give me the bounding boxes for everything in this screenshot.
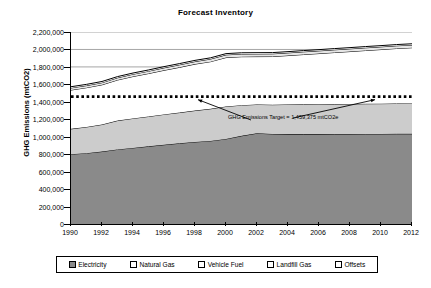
y-axis-tick-label: 1,000,000 bbox=[0, 133, 64, 140]
chart-title: Forecast Inventory bbox=[0, 8, 431, 17]
legend-swatch-icon bbox=[267, 261, 274, 268]
x-axis-tick-mark bbox=[194, 222, 195, 226]
target-annotation-label: GHG Emissions Target = 1,459,375 mtCO2e bbox=[228, 114, 338, 120]
x-axis-tick-mark bbox=[163, 222, 164, 226]
x-axis-tick-label: 1990 bbox=[62, 229, 78, 236]
y-axis-tick-label: 1,200,000 bbox=[0, 116, 64, 123]
x-axis-tick-label: 2000 bbox=[217, 229, 233, 236]
x-axis-tick-label: 2002 bbox=[248, 229, 264, 236]
y-axis-tick-label: 800,000 bbox=[0, 151, 64, 158]
x-axis-tick-label: 1992 bbox=[93, 229, 109, 236]
legend-item-landfill-gas[interactable]: Landfill Gas bbox=[267, 261, 311, 268]
x-axis-tick-label: 2008 bbox=[341, 229, 357, 236]
legend-item-label: Offsets bbox=[344, 261, 365, 268]
chart-legend: ElectricityNatural GasVehicle FuelLandfi… bbox=[56, 256, 378, 273]
x-axis-tick-label: 2010 bbox=[372, 229, 388, 236]
legend-swatch-icon bbox=[335, 261, 342, 268]
y-axis-tick-label: 600,000 bbox=[0, 168, 64, 175]
x-axis-tick-label: 1996 bbox=[155, 229, 171, 236]
y-axis-ticks: 0200,000400,000600,000800,0001,000,0001,… bbox=[0, 32, 70, 224]
y-axis-tick-label: 1,600,000 bbox=[0, 81, 64, 88]
legend-swatch-icon bbox=[130, 261, 137, 268]
legend-item-label: Natural Gas bbox=[139, 261, 174, 268]
x-axis-tick-label: 2012 bbox=[403, 229, 419, 236]
x-axis-tick-mark bbox=[318, 222, 319, 226]
plot-area bbox=[70, 32, 412, 225]
legend-item-offsets[interactable]: Offsets bbox=[335, 261, 365, 268]
x-axis-tick-label: 1998 bbox=[186, 229, 202, 236]
x-axis-tick-mark bbox=[256, 222, 257, 226]
x-axis-tick-mark bbox=[132, 222, 133, 226]
plot-svg bbox=[71, 32, 412, 224]
y-axis-tick-label: 0 bbox=[0, 221, 64, 228]
x-axis-tick-mark bbox=[287, 222, 288, 226]
legend-item-label: Vehicle Fuel bbox=[208, 261, 244, 268]
y-axis-tick-label: 2,000,000 bbox=[0, 46, 64, 53]
y-axis-tick-label: 1,400,000 bbox=[0, 98, 64, 105]
legend-item-label: Landfill Gas bbox=[277, 261, 312, 268]
x-axis-tick-mark bbox=[225, 222, 226, 226]
x-axis-tick-mark bbox=[349, 222, 350, 226]
y-axis-tick-label: 200,000 bbox=[0, 203, 64, 210]
x-axis-ticks: 1990199219941996199820002002200420062008… bbox=[70, 226, 411, 242]
legend-item-label: Electricity bbox=[78, 261, 106, 268]
x-axis-tick-label: 2004 bbox=[279, 229, 295, 236]
x-axis-tick-mark bbox=[70, 222, 71, 226]
x-axis-tick-label: 1994 bbox=[124, 229, 140, 236]
legend-swatch-icon bbox=[198, 261, 205, 268]
y-axis-tick-label: 1,800,000 bbox=[0, 63, 64, 70]
legend-item-electricity[interactable]: Electricity bbox=[69, 261, 107, 268]
legend-item-vehicle-fuel[interactable]: Vehicle Fuel bbox=[198, 261, 243, 268]
x-axis-tick-mark bbox=[101, 222, 102, 226]
y-axis-tick-label: 400,000 bbox=[0, 186, 64, 193]
x-axis-tick-mark bbox=[380, 222, 381, 226]
y-axis-tick-label: 2,200,000 bbox=[0, 29, 64, 36]
legend-swatch-icon bbox=[69, 261, 76, 268]
chart-screenshot: Forecast Inventory GHG Emissions (mtCO2)… bbox=[0, 0, 431, 288]
x-axis-tick-mark bbox=[411, 222, 412, 226]
legend-item-natural-gas[interactable]: Natural Gas bbox=[130, 261, 175, 268]
x-axis-tick-label: 2006 bbox=[310, 229, 326, 236]
